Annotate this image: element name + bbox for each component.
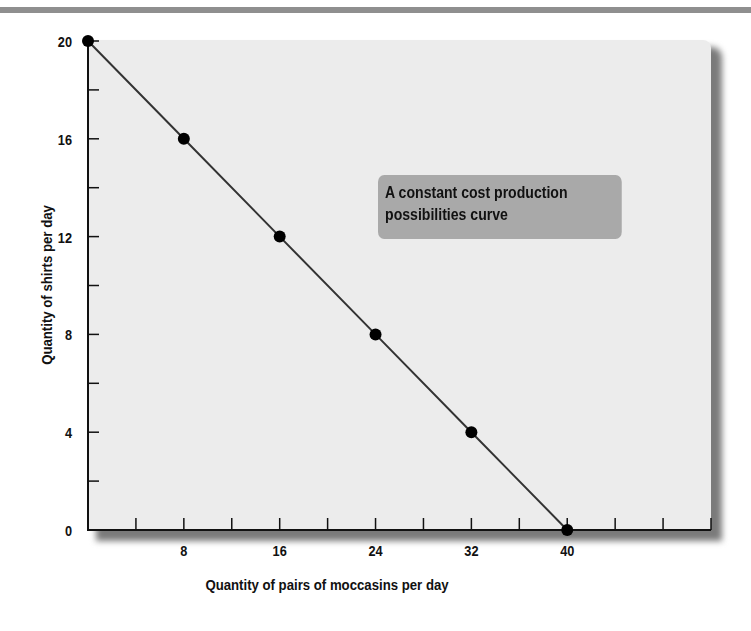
x-tick-label: 8 bbox=[180, 542, 187, 559]
axis-ticks bbox=[88, 41, 711, 530]
data-series bbox=[82, 35, 573, 536]
ppc-line bbox=[88, 41, 567, 530]
y-tick-label: 4 bbox=[65, 424, 72, 441]
y-tick-label: 0 bbox=[65, 522, 72, 539]
x-tick-label: 32 bbox=[464, 542, 478, 559]
y-tick-label: 12 bbox=[58, 229, 72, 246]
y-tick-label: 8 bbox=[65, 326, 72, 343]
data-point-marker bbox=[178, 133, 190, 145]
data-point-marker bbox=[465, 426, 477, 438]
tick-labels: 816243240048121620 bbox=[58, 33, 575, 559]
x-tick-label: 40 bbox=[560, 542, 574, 559]
data-point-marker bbox=[370, 328, 382, 340]
data-point-marker bbox=[274, 231, 286, 243]
x-tick-label: 24 bbox=[368, 542, 382, 559]
y-axis-title: Quantity of shirts per day bbox=[38, 205, 55, 365]
chart-svg: 816243240048121620 Quantity of pairs of … bbox=[0, 0, 751, 631]
y-tick-label: 16 bbox=[58, 131, 72, 148]
x-axis-title: Quantity of pairs of moccasins per day bbox=[205, 576, 448, 593]
annotation-box: A constant cost production possibilities… bbox=[378, 175, 622, 239]
axes bbox=[88, 39, 711, 531]
data-point-marker bbox=[561, 524, 573, 536]
x-tick-label: 16 bbox=[273, 542, 287, 559]
y-tick-label: 20 bbox=[58, 33, 72, 50]
data-point-marker bbox=[82, 35, 94, 47]
